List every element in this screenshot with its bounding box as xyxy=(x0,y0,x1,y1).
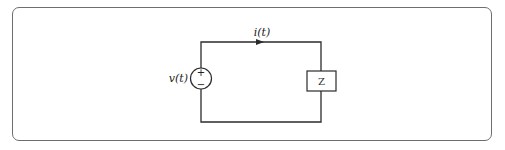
plus-sign: + xyxy=(197,67,205,78)
current-label: i(t) xyxy=(254,26,271,39)
impedance-label: Z xyxy=(318,76,325,87)
wire-left-top xyxy=(201,42,321,71)
voltage-source: + − xyxy=(191,67,212,90)
current-arrow-icon xyxy=(256,39,264,45)
minus-sign: − xyxy=(197,79,205,90)
wire-left-bottom xyxy=(201,89,321,122)
impedance: Z xyxy=(307,71,336,91)
source-label: v(t) xyxy=(169,72,188,85)
circuit-diagram: i(t) + − v(t) Z xyxy=(0,0,505,150)
circuit-wires xyxy=(201,42,321,122)
